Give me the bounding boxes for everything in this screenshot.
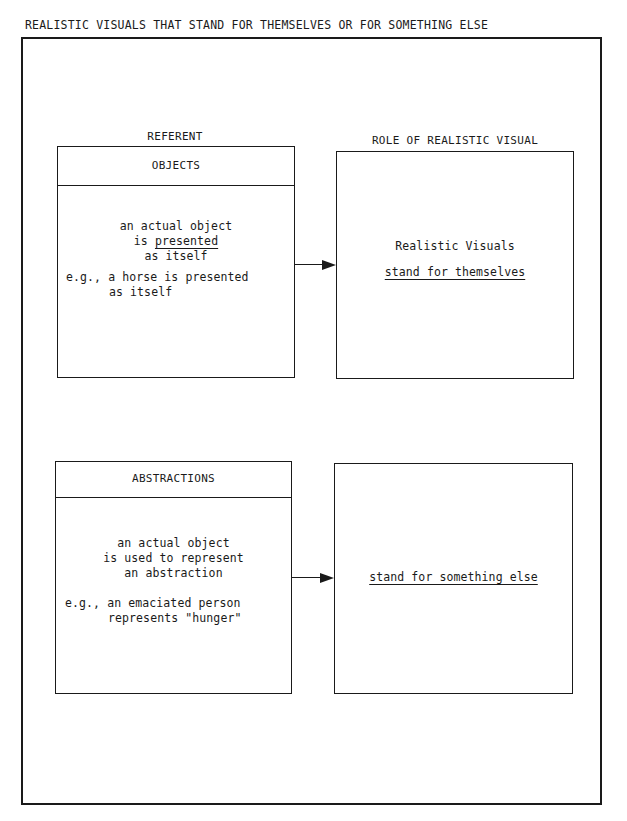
- arrow-line-2: [292, 577, 321, 578]
- objects-example: e.g., a horse is presented as itself: [66, 270, 249, 300]
- role-line-stand-for-something-else: stand for something else: [335, 570, 572, 585]
- abstractions-header: ABSTRACTIONS: [56, 462, 291, 498]
- objects-header: OBJECTS: [58, 147, 294, 186]
- role-line-realistic-visuals: Realistic Visuals: [337, 239, 573, 254]
- objects-desc-line-3: as itself: [58, 249, 294, 264]
- abstractions-referent-box: ABSTRACTIONS an actual object is used to…: [55, 461, 292, 694]
- abstractions-example: e.g., an emaciated person represents "hu…: [65, 596, 241, 626]
- abstractions-desc-line-3: an abstraction: [56, 566, 291, 581]
- stand-for-something-else-box: stand for something else: [334, 463, 573, 694]
- objects-example-line-1: e.g., a horse is presented: [66, 270, 249, 285]
- abstractions-example-line-1: e.g., an emaciated person: [65, 596, 241, 611]
- abstractions-example-line-2: represents "hunger": [65, 611, 241, 626]
- arrow-head-icon: [320, 573, 334, 583]
- objects-desc-line-2: is presented: [58, 234, 294, 249]
- objects-desc-line-1: an actual object: [58, 219, 294, 234]
- arrow-head-icon: [322, 260, 336, 270]
- role-column-label: ROLE OF REALISTIC VISUAL: [336, 134, 574, 147]
- abstractions-description: an actual object is used to represent an…: [56, 536, 291, 581]
- objects-referent-box: OBJECTS an actual object is presented as…: [57, 146, 295, 378]
- abstractions-desc-line-1: an actual object: [56, 536, 291, 551]
- presented-underlined: presented: [155, 234, 218, 248]
- role-line-stand-for-themselves: stand for themselves: [337, 265, 573, 280]
- objects-example-line-2: as itself: [66, 285, 249, 300]
- objects-description: an actual object is presented as itself: [58, 219, 294, 264]
- abstractions-desc-line-2: is used to represent: [56, 551, 291, 566]
- referent-column-label: REFERENT: [105, 130, 245, 143]
- stand-for-themselves-box: Realistic Visuals stand for themselves: [336, 151, 574, 379]
- arrow-line-1: [295, 264, 323, 265]
- diagram-title: REALISTIC VISUALS THAT STAND FOR THEMSEL…: [25, 18, 488, 32]
